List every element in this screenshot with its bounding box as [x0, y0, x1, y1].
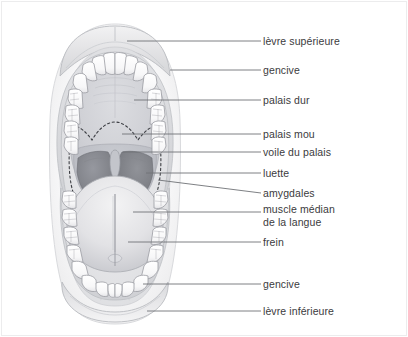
label-luette: luette: [263, 167, 289, 180]
label-line: gencive: [263, 64, 300, 77]
label-line: voile du palais: [263, 146, 331, 159]
label-levre-superieure: lèvre supérieure: [263, 35, 340, 48]
label-gencive-superieure: gencive: [263, 64, 300, 77]
label-voile-du-palais: voile du palais: [263, 146, 331, 159]
label-line: gencive: [263, 278, 300, 291]
label-line: amygdales: [263, 187, 315, 200]
label-line: frein: [263, 236, 284, 249]
figure-page: lèvre supérieuregencivepalais durpalais …: [0, 0, 408, 337]
label-amygdales: amygdales: [263, 187, 315, 200]
label-line: palais dur: [263, 94, 310, 107]
label-line: de la langue: [263, 216, 335, 229]
label-frein: frein: [263, 236, 284, 249]
label-line: muscle médian: [263, 203, 335, 216]
label-gencive-inferieure: gencive: [263, 278, 300, 291]
label-muscle-median-de-la-langue: muscle médiande la langue: [263, 203, 335, 229]
label-line: lèvre inférieure: [263, 305, 334, 318]
label-line: lèvre supérieure: [263, 35, 340, 48]
label-levre-inferieure: lèvre inférieure: [263, 305, 334, 318]
mouth-anatomy-illustration: [0, 0, 408, 337]
label-palais-dur: palais dur: [263, 94, 310, 107]
label-line: luette: [263, 167, 289, 180]
label-palais-mou: palais mou: [263, 128, 315, 141]
label-line: palais mou: [263, 128, 315, 141]
